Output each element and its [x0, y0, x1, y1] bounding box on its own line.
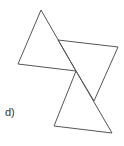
figure-canvas — [0, 0, 124, 146]
figure-label: d) — [5, 106, 15, 118]
top-left-triangle — [18, 10, 76, 71]
geometry-figure: d) — [0, 0, 124, 146]
